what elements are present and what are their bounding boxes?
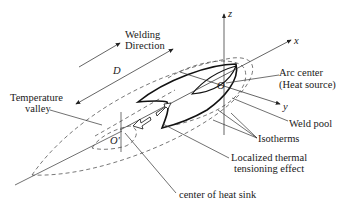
temperature-valley-label-1: Temperature xyxy=(10,92,63,103)
x-axis-label: x xyxy=(293,35,299,46)
arc-center-label-1: Arc center xyxy=(279,67,324,78)
thermal-effect-label-1: Localized thermal xyxy=(231,152,307,163)
heat-sink-diagonal xyxy=(15,131,122,185)
origin-label: O xyxy=(217,80,225,91)
heat-sink-label: center of heat sink xyxy=(179,189,257,200)
welding-direction-arrow xyxy=(79,43,120,67)
welding-direction-label-1: Welding xyxy=(125,29,161,40)
welding-thermal-diagram: Welding Direction D z x y O O' Temperatu… xyxy=(0,0,346,213)
origin-prime-label: O' xyxy=(110,135,121,146)
weld-pool-boundary xyxy=(138,64,237,128)
outer-isotherm xyxy=(32,58,253,175)
z-axis-label: z xyxy=(227,8,232,19)
weld-pool-leader xyxy=(232,98,288,121)
isotherms-leader-3 xyxy=(213,120,257,138)
isotherms-label: Isotherms xyxy=(258,133,299,144)
temperature-valley-label-2: valley xyxy=(25,103,51,114)
y-axis-label: y xyxy=(282,101,288,112)
weld-pool-label: Weld pool xyxy=(289,118,332,129)
temperature-valley-leader xyxy=(50,110,102,125)
thermal-effect-label-2: tensioning effect xyxy=(234,163,304,174)
isotherms-leader-1 xyxy=(231,113,257,138)
x-axis xyxy=(120,40,291,130)
distance-label: D xyxy=(112,65,121,76)
thermal-effect-leader xyxy=(163,124,229,158)
arc-center-label-2: (Heat source) xyxy=(279,79,336,91)
welding-direction-label-2: Direction xyxy=(125,40,165,51)
